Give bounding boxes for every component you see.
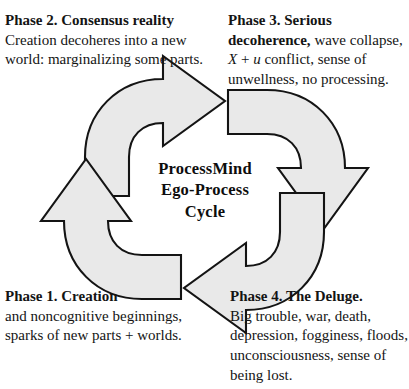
center-title: ProcessMind Ego-Process Cycle <box>126 158 284 222</box>
center-title-line2: Ego-Process <box>126 179 284 200</box>
phase-4-heading: Phase 4. The Deluge. <box>230 288 363 304</box>
phase-3-block: Phase 3. Serious decoherence, wave colla… <box>228 11 408 90</box>
process-cycle-diagram: ProcessMind Ego-Process Cycle Phase 2. C… <box>0 0 409 389</box>
phase-3-variable-x: X <box>228 51 237 67</box>
phase-3-plus: + <box>237 51 253 67</box>
center-title-line1: ProcessMind <box>126 158 284 179</box>
phase-1-heading: Phase 1. Creation <box>5 288 118 304</box>
phase-3-variable-u: u <box>253 51 261 67</box>
phase-2-heading: Phase 2. Consensus reality <box>5 12 174 28</box>
phase-1-block: Phase 1. Creation and noncognitive begin… <box>5 287 215 346</box>
phase-2-block: Phase 2. Consensus reality Creation deco… <box>5 11 223 70</box>
phase-4-body: Big trouble, war, death, depression, fog… <box>230 308 408 383</box>
phase-1-body: and noncognitive beginnings, sparks of n… <box>5 308 182 344</box>
phase-4-block: Phase 4. The Deluge. Big trouble, war, d… <box>230 287 408 386</box>
center-title-line3: Cycle <box>126 201 284 222</box>
phase-3-body-part1: wave collapse, <box>311 32 403 48</box>
phase-2-body: Creation decoheres into a new world: mar… <box>5 32 203 68</box>
